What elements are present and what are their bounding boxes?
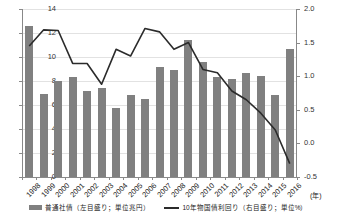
bar-swatch-icon bbox=[29, 205, 42, 210]
chart-legend: 普通社債（左目盛り；単位兆円） 10年物国債利回り（右目盛り；単位%） bbox=[0, 201, 337, 214]
y-axis-right-tick bbox=[297, 110, 300, 111]
y-axis-right-tick bbox=[297, 43, 300, 44]
legend-item-bonds: 普通社債（左目盛り；単位兆円） bbox=[29, 204, 150, 212]
legend-item-yield: 10年物国債利回り（右目盛り；単位%） bbox=[164, 204, 307, 212]
x-axis-tick-label: 2015 bbox=[270, 181, 288, 199]
x-axis-tick-label: 2016 bbox=[285, 181, 303, 199]
x-axis-tick-label: 2000 bbox=[53, 181, 71, 199]
x-axis-tick bbox=[254, 177, 255, 180]
x-axis-tick bbox=[65, 177, 66, 180]
x-axis-tick bbox=[167, 177, 168, 180]
y-axis-right-tick-label: 1.0 bbox=[304, 72, 337, 80]
x-axis-tick bbox=[225, 177, 226, 180]
line-series-layer bbox=[22, 9, 297, 177]
y-axis-right-tick-label: 1.5 bbox=[304, 39, 337, 47]
x-axis-tick bbox=[283, 177, 284, 180]
line-swatch-icon bbox=[164, 207, 179, 209]
x-axis-tick-label: 2006 bbox=[140, 181, 158, 199]
x-axis-tick-label: 2011 bbox=[213, 181, 231, 199]
x-axis-line bbox=[22, 177, 297, 178]
x-axis-tick bbox=[268, 177, 269, 180]
y-axis-right-tick bbox=[297, 143, 300, 144]
x-axis-tick bbox=[51, 177, 52, 180]
x-axis-tick bbox=[297, 177, 298, 180]
x-axis-tick-label: 1998 bbox=[24, 181, 42, 199]
x-axis-tick bbox=[123, 177, 124, 180]
x-axis-tick-label: 2004 bbox=[111, 181, 129, 199]
y-axis-right-tick bbox=[297, 9, 300, 10]
x-axis-tick bbox=[109, 177, 110, 180]
x-axis-tick bbox=[36, 177, 37, 180]
y-axis-right-tick-label: 0.5 bbox=[304, 106, 337, 114]
x-axis-tick bbox=[239, 177, 240, 180]
x-axis-tick bbox=[94, 177, 95, 180]
x-axis-tick bbox=[80, 177, 81, 180]
x-axis-tick bbox=[138, 177, 139, 180]
y-axis-right-tick-label: -0.5 bbox=[304, 173, 337, 181]
x-axis-tick bbox=[152, 177, 153, 180]
x-axis-tick-label: 2002 bbox=[82, 181, 100, 199]
x-axis-tick bbox=[196, 177, 197, 180]
legend-label-yield: 10年物国債利回り（右目盛り；単位%） bbox=[182, 204, 307, 212]
x-axis-unit-label: (年) bbox=[310, 190, 322, 200]
yield-line bbox=[29, 28, 290, 163]
x-axis-tick bbox=[22, 177, 23, 180]
x-axis-tick bbox=[210, 177, 211, 180]
chart-container: 02468101214 -0.50.00.51.01.52.0 19981999… bbox=[0, 0, 337, 214]
legend-label-bonds: 普通社債（左目盛り；単位兆円） bbox=[45, 204, 150, 212]
x-axis-tick bbox=[181, 177, 182, 180]
y-axis-right-tick-label: 2.0 bbox=[304, 5, 337, 13]
y-axis-right-tick bbox=[297, 76, 300, 77]
y-axis-right-tick-label: 0.0 bbox=[304, 139, 337, 147]
